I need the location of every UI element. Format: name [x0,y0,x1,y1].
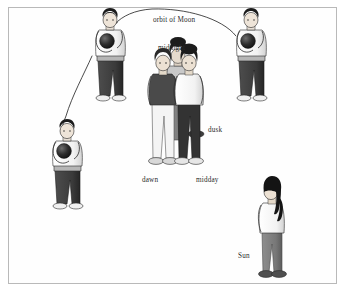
label-midnight: midnight [158,44,185,53]
label-dusk: dusk [208,126,222,135]
label-orbit-of-moon: orbit of Moon [153,16,195,25]
illustration-canvas: orbit of Moon midnight dusk dawn midday … [0,0,348,294]
label-dawn: dawn [142,176,158,185]
person-moon-right [237,8,267,101]
person-sun [258,176,286,277]
person-earth-dawn [148,48,178,164]
person-moon-top-left [96,8,126,101]
person-moon-bottom-left [53,119,83,209]
label-midday: midday [196,176,218,185]
label-sun: Sun [238,252,250,261]
